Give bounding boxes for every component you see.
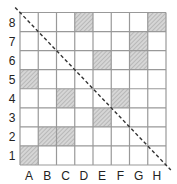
cell-H5 xyxy=(148,70,166,89)
column-labels: ABCDEFGH xyxy=(25,169,161,183)
cell-F5 xyxy=(111,70,129,89)
shaded-cell-E6 xyxy=(93,51,111,70)
cell-H3 xyxy=(148,108,166,127)
cell-C1 xyxy=(57,146,75,165)
row-labels: 12345678 xyxy=(9,16,16,163)
cell-D4 xyxy=(75,89,93,108)
column-label-G: G xyxy=(134,169,143,183)
column-label-A: A xyxy=(25,169,33,183)
cell-A4 xyxy=(20,89,38,108)
cell-D3 xyxy=(75,108,93,127)
cell-G3 xyxy=(130,108,148,127)
column-label-C: C xyxy=(61,169,70,183)
shaded-cell-F4 xyxy=(111,89,129,108)
shaded-cell-A5 xyxy=(20,70,38,89)
shaded-cell-C4 xyxy=(57,89,75,108)
row-label-6: 6 xyxy=(9,54,16,68)
cell-G1 xyxy=(130,146,148,165)
cell-E5 xyxy=(93,70,111,89)
cell-H4 xyxy=(148,89,166,108)
shaded-cell-G6 xyxy=(130,51,148,70)
cell-F2 xyxy=(111,127,129,146)
shaded-cell-B2 xyxy=(38,127,56,146)
cell-E2 xyxy=(93,127,111,146)
shaded-cell-A1 xyxy=(20,146,38,165)
cell-B6 xyxy=(38,51,56,70)
cell-A7 xyxy=(20,32,38,51)
cell-G5 xyxy=(130,70,148,89)
cell-B5 xyxy=(38,70,56,89)
row-label-1: 1 xyxy=(9,149,16,163)
row-label-7: 7 xyxy=(9,35,16,49)
row-label-5: 5 xyxy=(9,73,16,87)
cell-D2 xyxy=(75,127,93,146)
shaded-cell-H8 xyxy=(148,13,166,32)
column-label-E: E xyxy=(98,169,106,183)
shaded-cell-E3 xyxy=(93,108,111,127)
cell-F7 xyxy=(111,32,129,51)
column-label-H: H xyxy=(153,169,162,183)
cell-H2 xyxy=(148,127,166,146)
row-label-2: 2 xyxy=(9,130,16,144)
cell-E7 xyxy=(93,32,111,51)
cell-D1 xyxy=(75,146,93,165)
cell-G4 xyxy=(130,89,148,108)
cell-B8 xyxy=(38,13,56,32)
cell-D7 xyxy=(75,32,93,51)
cell-B1 xyxy=(38,146,56,165)
column-label-D: D xyxy=(80,169,89,183)
cell-H6 xyxy=(148,51,166,70)
column-label-F: F xyxy=(117,169,124,183)
chess-grid-diagram: 12345678 ABCDEFGH xyxy=(0,0,177,184)
cell-A3 xyxy=(20,108,38,127)
cell-F8 xyxy=(111,13,129,32)
cell-C5 xyxy=(57,70,75,89)
cell-C8 xyxy=(57,13,75,32)
row-label-4: 4 xyxy=(9,92,16,106)
shaded-cell-D8 xyxy=(75,13,93,32)
cell-F1 xyxy=(111,146,129,165)
row-label-3: 3 xyxy=(9,111,16,125)
cell-A2 xyxy=(20,127,38,146)
shaded-cell-C2 xyxy=(57,127,75,146)
cell-G8 xyxy=(130,13,148,32)
column-label-B: B xyxy=(43,169,51,183)
cell-C3 xyxy=(57,108,75,127)
row-label-8: 8 xyxy=(9,16,16,30)
cell-D6 xyxy=(75,51,93,70)
shaded-cell-G7 xyxy=(130,32,148,51)
cell-H7 xyxy=(148,32,166,51)
cell-B4 xyxy=(38,89,56,108)
cell-F6 xyxy=(111,51,129,70)
cell-C7 xyxy=(57,32,75,51)
cell-E8 xyxy=(93,13,111,32)
cell-E1 xyxy=(93,146,111,165)
cell-B3 xyxy=(38,108,56,127)
cell-A6 xyxy=(20,51,38,70)
